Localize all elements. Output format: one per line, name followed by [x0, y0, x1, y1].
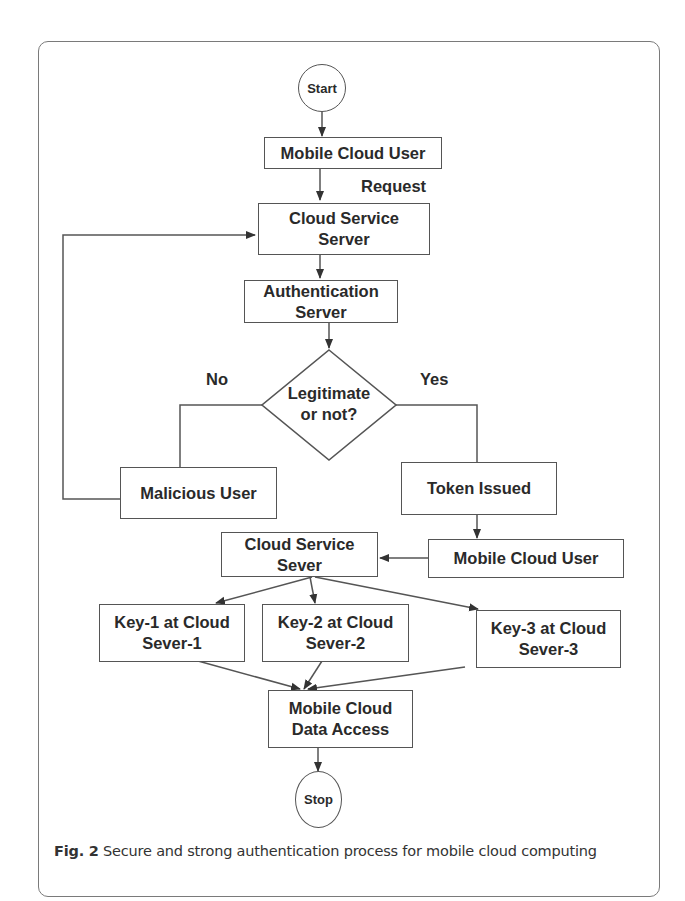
stop-node: Stop	[295, 771, 342, 828]
token-issued-node: Token Issued	[401, 462, 557, 515]
start-node: Start	[298, 64, 346, 112]
mobile-cloud-user-node-2: Mobile Cloud User	[428, 539, 624, 578]
request-label: Request	[361, 177, 426, 196]
decision-text: Legitimate or not?	[269, 383, 389, 425]
malicious-user-node: Malicious User	[120, 467, 277, 519]
caption-text: Secure and strong authentication process…	[99, 843, 597, 859]
yes-label: Yes	[420, 370, 448, 389]
figure-caption: Fig. 2 Secure and strong authentication …	[54, 841, 614, 861]
key1-node: Key-1 at Cloud Sever-1	[99, 604, 245, 662]
authentication-server-node: Authentication Server	[244, 280, 398, 323]
cloud-service-server-node: Cloud Service Server	[258, 203, 430, 255]
no-label: No	[206, 370, 228, 389]
mobile-cloud-user-node: Mobile Cloud User	[264, 137, 442, 169]
data-access-node: Mobile Cloud Data Access	[268, 690, 413, 748]
cloud-service-sever-node: Cloud Service Sever	[221, 532, 378, 577]
flow-connectors	[0, 0, 685, 901]
key2-node: Key-2 at Cloud Sever-2	[262, 604, 409, 662]
key3-node: Key-3 at Cloud Sever-3	[476, 610, 621, 668]
caption-label: Fig. 2	[54, 843, 99, 859]
